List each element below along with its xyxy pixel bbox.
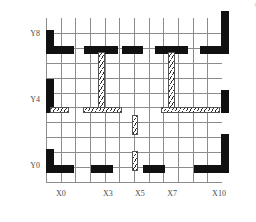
x-axis-labels: X0X3X5X7X10 [46,190,222,204]
shear-wall-hatched [132,151,139,170]
shear-wall-solid [221,90,229,114]
x-axis-tick-label: X10 [212,190,226,198]
plan-plot-area [46,18,222,182]
wall-elements [46,18,222,182]
corner-note-label: 4F [254,2,256,8]
shear-wall-solid [46,165,74,173]
shear-wall-hatched [161,107,220,113]
shear-wall-hatched [168,52,175,109]
y-axis-tick-label: Y8 [30,30,40,38]
shear-wall-hatched [98,52,105,109]
floor-plan-figure: 4F Y8Y4Y0 X0X3X5X7X10 [0,0,256,222]
shear-wall-solid [143,165,165,173]
shear-wall-solid [122,46,143,54]
y-axis-labels: Y8Y4Y0 [0,18,40,182]
x-axis-tick-label: X3 [103,190,113,198]
shear-wall-solid [221,11,229,54]
shear-wall-solid [194,165,229,173]
y-axis-tick-label: Y4 [30,96,40,104]
shear-wall-hatched [83,107,122,113]
shear-wall-solid [91,165,113,173]
x-axis-tick-label: X7 [167,190,177,198]
grid-line-horizontal [46,182,222,183]
y-axis-tick-label: Y0 [30,162,40,170]
x-axis-tick-label: X0 [56,190,66,198]
shear-wall-hatched [50,107,70,113]
shear-wall-hatched [132,115,139,135]
x-axis-tick-label: X5 [135,190,145,198]
shear-wall-solid [46,30,54,54]
